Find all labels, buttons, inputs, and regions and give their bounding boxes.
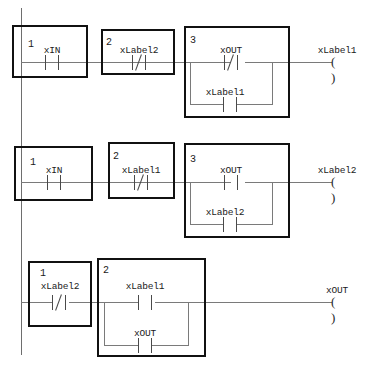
rung-2-output-coil[interactable]: ( )	[331, 174, 349, 190]
rung-3-block-1-contact-nc[interactable]	[52, 295, 66, 310]
rung-1-block-3[interactable]	[184, 26, 290, 118]
rung-3-block-2-label: xLabel1	[114, 282, 176, 292]
rung-1-block-2-contact-nc[interactable]	[132, 55, 146, 70]
rung-3-block-2-branch-contact-no[interactable]	[138, 338, 152, 353]
rung-2-block-1-contact-no[interactable]	[47, 175, 61, 190]
rung-1-block-3-contact-nc[interactable]	[224, 55, 238, 70]
rung-1-block-1-contact-no[interactable]	[45, 55, 59, 70]
rung-1-block-3-number: 3	[190, 36, 196, 46]
rung-2-block-2-contact-nc[interactable]	[134, 175, 148, 190]
rung-3-output-coil[interactable]: ( )	[331, 294, 349, 310]
rung-2-block-3-number: 3	[190, 155, 196, 165]
rung-2-block-3-contact-no[interactable]	[224, 175, 238, 190]
rung-1-block-3-branch-contact-no[interactable]	[223, 97, 237, 112]
rung-3-block-2-contact-no[interactable]	[138, 295, 152, 310]
ladder-diagram-canvas: 1 xIN 2 xLabel2 3 xOUT xLabel1 xLabel1 (…	[0, 0, 369, 371]
rung-3-block-1-number: 1	[40, 269, 46, 279]
rung-2-block-2-number: 2	[113, 152, 119, 162]
rung-2-block-3[interactable]	[184, 143, 290, 238]
rung-3-block-1-label: xLabel2	[29, 282, 91, 292]
rung-1-output-coil[interactable]: ( )	[331, 54, 349, 70]
rung-3-block-2-number: 2	[103, 266, 109, 276]
rung-2-block-3-branch-contact-no[interactable]	[223, 217, 237, 232]
